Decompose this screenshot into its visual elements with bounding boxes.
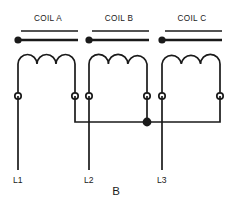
coil-c-winding [162,54,220,96]
wire-coil-a-right-to-bus [75,96,147,122]
lead-l2-label: L2 [84,175,94,185]
schematic-canvas: COIL A COIL B COIL C [0,0,232,210]
coil-c-title: COIL C [178,14,207,23]
lead-l1-label: L1 [13,175,23,185]
lead-l3-label: L3 [157,175,167,185]
coil-group-a: COIL A [14,14,78,99]
coil-a-polarity-dot [14,36,21,43]
coil-group-b: COIL B [85,14,150,99]
coil-b-title: COIL B [105,14,134,23]
coil-b-winding [89,54,147,96]
coil-wiring-diagram: COIL A COIL B COIL C [0,0,232,210]
line-leads: L1 L2 L3 [13,96,167,185]
junction-dot [143,118,152,127]
interconnect-wiring [75,96,220,126]
coil-a-winding [18,55,75,97]
coil-c-polarity-dot [158,36,165,43]
wire-coil-c-right-to-bus [147,96,220,122]
coil-b-polarity-dot [85,36,92,43]
figure-caption: B [112,185,120,197]
coil-group-c: COIL C [158,14,223,99]
coil-a-title: COIL A [34,14,62,23]
